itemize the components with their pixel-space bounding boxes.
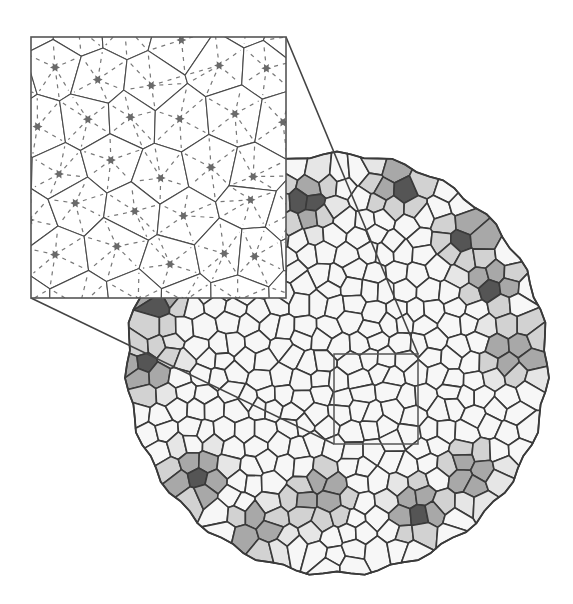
inset-dash (160, 2, 161, 6)
inset-dash (26, 47, 27, 50)
inset-dash (270, 39, 274, 40)
inset-dash (40, 18, 44, 19)
inset-dash (14, 10, 17, 12)
inset-dash (50, 0, 51, 1)
inset-dash (358, 119, 360, 122)
voronoi-cell (296, 492, 317, 508)
inset-dash (60, 352, 62, 355)
inset-dash (22, 15, 25, 17)
inset-dash (332, 33, 334, 37)
inset-dash (97, 370, 98, 374)
inset-dash (134, 242, 138, 243)
inset-dash (10, 46, 12, 48)
inset-dash (343, 91, 346, 94)
inset-dash (25, 273, 27, 274)
voronoi-cell (128, 384, 157, 407)
inset-voronoi-cell (0, 276, 50, 334)
inset-dash (14, 54, 15, 57)
inset-dash (171, 34, 174, 36)
inset-voronoi-cell (0, 328, 46, 378)
inset-dash (34, 143, 35, 147)
inset-dash (0, 12, 2, 15)
inset-dash (264, 85, 265, 89)
inset-dash (190, 247, 191, 248)
inset-dash (53, 263, 54, 267)
inset-dash (290, 94, 291, 97)
inset-dash (226, 22, 230, 23)
inset-dash (257, 31, 259, 34)
inset-dash (3, 317, 6, 319)
inset-dash (355, 13, 357, 16)
site-marker-icon (73, 23, 83, 32)
inset-dash (19, 215, 23, 217)
inset-dash (186, 20, 187, 24)
inset-dash (287, 102, 288, 106)
inset-dash (291, 120, 295, 121)
inset-dash (228, 24, 232, 26)
inset-dash (33, 329, 34, 331)
inset-voronoi-cell (0, 0, 16, 72)
inset-dash (123, 358, 125, 361)
inset-dash (47, 338, 51, 339)
inset-dash (305, 65, 309, 66)
inset-dash (6, 347, 8, 350)
inset-dash (102, 353, 103, 357)
inset-dash (350, 6, 352, 9)
inset-voronoi-cell (0, 228, 30, 290)
inset-dash (322, 84, 323, 88)
inset-dash (35, 250, 39, 251)
inset-dash (220, 224, 221, 228)
inset-dash (185, 204, 186, 208)
inset-dash (236, 21, 240, 23)
inset-dash (299, 33, 303, 34)
inset-dash (29, 321, 31, 324)
inset-voronoi-cell (20, 0, 80, 14)
inset-dash (183, 98, 184, 102)
inset-dash (43, 252, 47, 253)
inset-dash (3, 207, 6, 208)
inset-voronoi-cell (136, 0, 191, 24)
inset-dash (163, 29, 166, 31)
inset-dash (29, 29, 30, 33)
inset-dash (44, 316, 46, 317)
inset-dash (17, 252, 21, 254)
inset-dash (10, 70, 11, 74)
inset-dash (132, 5, 134, 9)
inset-dash (12, 61, 13, 65)
inset-voronoi-cell (78, 0, 137, 16)
inset-dash (22, 36, 24, 39)
inset-dash (9, 224, 13, 225)
inset-dash (84, 365, 87, 368)
inset-dash (296, 16, 297, 20)
site-marker-icon (242, 13, 252, 22)
inset-dash (325, 92, 326, 96)
inset-dash (335, 148, 337, 151)
inset-dash (48, 15, 52, 16)
inset-dash (352, 127, 354, 130)
inset-dash (328, 41, 330, 45)
inset-dash (125, 244, 129, 245)
inset-dash (328, 101, 329, 105)
inset-dash (25, 287, 26, 291)
inset-dash (18, 133, 22, 135)
inset-dash (102, 8, 103, 12)
inset-dash (68, 31, 72, 33)
inset-dash (105, 0, 106, 4)
inset-dash (329, 79, 332, 82)
inset-dash (27, 130, 31, 132)
inset-dash (267, 0, 268, 3)
inset-dash (130, 30, 133, 33)
inset-dash (155, 149, 156, 153)
voronoi-cell (311, 371, 330, 388)
inset-dash (308, 31, 312, 32)
inset-dash (221, 233, 222, 237)
inset-dash (84, 152, 86, 153)
inset-dash (17, 64, 19, 67)
inset-dash (327, 143, 328, 147)
inset-dash (28, 38, 29, 42)
inset-dash (61, 162, 62, 166)
inset-dash (199, 1, 202, 3)
inset-dash (323, 73, 326, 76)
inset-dash (93, 18, 97, 20)
inset-dash (90, 371, 93, 374)
